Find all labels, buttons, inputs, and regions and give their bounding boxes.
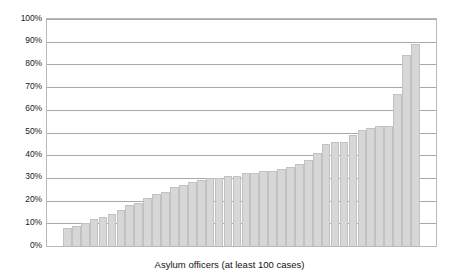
y-tick-40: 40% (0, 150, 42, 159)
bar (277, 169, 286, 246)
bar (402, 55, 411, 246)
bar (152, 194, 161, 246)
bar (206, 178, 215, 246)
gridline-0 (47, 246, 436, 247)
bar (81, 223, 90, 246)
bar (250, 173, 259, 246)
bar (340, 142, 349, 246)
bar (99, 217, 108, 247)
y-tick-60: 60% (0, 104, 42, 113)
bar (286, 167, 295, 246)
bar (161, 192, 170, 246)
y-tick-50: 50% (0, 127, 42, 136)
y-tick-80: 80% (0, 59, 42, 68)
bar (125, 205, 134, 246)
bar (304, 160, 313, 246)
bar (295, 164, 304, 246)
y-tick-90: 90% (0, 36, 42, 45)
bar (375, 126, 384, 246)
bar (313, 153, 322, 246)
bar (331, 142, 340, 246)
bar (224, 176, 233, 246)
bar (179, 185, 188, 246)
x-axis-title: Asylum officers (at least 100 cases) (0, 259, 459, 271)
bar (188, 182, 197, 246)
bar-chart-figure: 0%10%20%30%40%50%60%70%80%90%100% Asylum… (0, 0, 459, 277)
bar (197, 180, 206, 246)
bar (170, 187, 179, 246)
bar (134, 203, 143, 246)
bar (268, 171, 277, 246)
bar (143, 198, 152, 246)
bar (242, 173, 251, 246)
bar (366, 128, 375, 246)
bar (63, 228, 72, 246)
bar (393, 94, 402, 246)
y-tick-10: 10% (0, 218, 42, 227)
bars-series (47, 19, 436, 246)
bar (72, 226, 81, 246)
y-tick-0: 0% (0, 241, 42, 250)
plot-area (46, 18, 437, 247)
bar (233, 176, 242, 246)
y-tick-100: 100% (0, 14, 42, 23)
y-tick-30: 30% (0, 172, 42, 181)
bar (322, 144, 331, 246)
bar (411, 44, 420, 246)
y-tick-20: 20% (0, 195, 42, 204)
bar (90, 219, 99, 246)
bar (108, 214, 117, 246)
bar (358, 130, 367, 246)
bar (117, 210, 126, 246)
bar (259, 171, 268, 246)
y-tick-70: 70% (0, 82, 42, 91)
bar (215, 178, 224, 246)
bar (384, 126, 393, 246)
bar (349, 135, 358, 246)
